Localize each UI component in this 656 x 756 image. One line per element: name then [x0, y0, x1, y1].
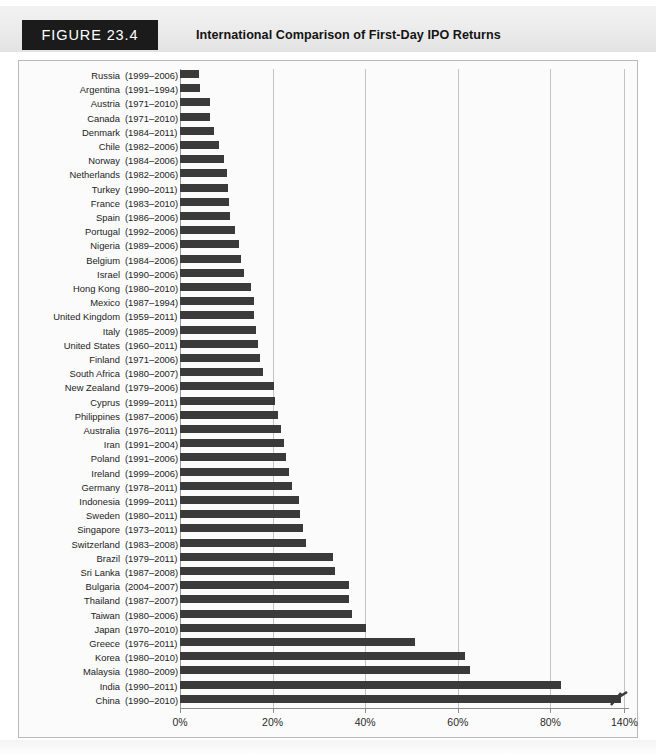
- bar: [180, 283, 251, 291]
- row-country-label: Bulgaria: [19, 581, 120, 592]
- chart-row: Iran(1991–2004): [19, 438, 639, 452]
- bar: [180, 184, 228, 192]
- row-country-label: Australia: [19, 425, 120, 436]
- row-country-label: Japan: [19, 624, 120, 635]
- bar: [180, 439, 284, 447]
- chart-row: Austria(1971–2010): [19, 97, 639, 111]
- chart-row: Indonesia(1999–2011): [19, 495, 639, 509]
- row-year-range-label: (1960–2011): [125, 340, 177, 351]
- chart-row: Netherlands(1982–2006): [19, 168, 639, 182]
- bar: [180, 340, 258, 348]
- chart-row: India(1990–2011): [19, 680, 639, 694]
- row-country-label: Singapore: [19, 524, 120, 535]
- bar: [180, 425, 281, 433]
- row-year-range-label: (1982–2006): [125, 141, 177, 152]
- bar: [180, 453, 286, 461]
- row-year-range-label: (1999–2006): [125, 70, 177, 81]
- row-country-label: Philippines: [19, 411, 120, 422]
- row-country-label: South Africa: [19, 368, 120, 379]
- bar: [180, 524, 303, 532]
- row-country-label: France: [19, 198, 120, 209]
- row-country-label: Taiwan: [19, 610, 120, 621]
- row-country-label: Austria: [19, 98, 120, 109]
- bar-chart-plot: Russia(1999–2006)Argentina(1991–1994)Aus…: [19, 61, 639, 739]
- chart-row: Japan(1970–2010): [19, 623, 639, 637]
- chart-row: Malaysia(1980–2009): [19, 665, 639, 679]
- bar: [180, 198, 229, 206]
- row-year-range-label: (1979–2006): [125, 382, 177, 393]
- row-year-range-label: (1987–2008): [125, 567, 177, 578]
- bar: [180, 397, 275, 405]
- row-year-range-label: (1971–2010): [125, 98, 177, 109]
- row-country-label: United Kingdom: [19, 311, 120, 322]
- chart-row: Taiwan(1980–2006): [19, 609, 639, 623]
- chart-row: New Zealand(1979–2006): [19, 381, 639, 395]
- row-country-label: Poland: [19, 453, 120, 464]
- row-country-label: Greece: [19, 638, 120, 649]
- bar: [180, 113, 210, 121]
- chart-row: Portugal(1992–2006): [19, 225, 639, 239]
- row-year-range-label: (1973–2011): [125, 524, 177, 535]
- bar: [180, 482, 292, 490]
- bar: [180, 411, 278, 419]
- bar: [180, 468, 289, 476]
- chart-row: Philippines(1987–2006): [19, 410, 639, 424]
- figure-header-band: FIGURE 23.4 International Comparison of …: [0, 6, 656, 52]
- row-country-label: Portugal: [19, 226, 120, 237]
- chart-row: United Kingdom(1959–2011): [19, 310, 639, 324]
- row-year-range-label: (1986–2006): [125, 212, 177, 223]
- row-country-label: Brazil: [19, 553, 120, 564]
- bar: [180, 311, 254, 319]
- row-year-range-label: (1990–2011): [125, 184, 177, 195]
- chart-row: Belgium(1984–2006): [19, 254, 639, 268]
- bar: [180, 255, 241, 263]
- bar: [180, 141, 219, 149]
- row-country-label: Switzerland: [19, 539, 120, 550]
- bar: [180, 98, 210, 106]
- chart-row: Argentina(1991–1994): [19, 83, 639, 97]
- x-tick-label: 20%: [262, 716, 283, 728]
- axis-break-zigzag-icon: [609, 690, 629, 708]
- row-country-label: Thailand: [19, 595, 120, 606]
- row-country-label: Sweden: [19, 510, 120, 521]
- row-year-range-label: (1980–2009): [125, 666, 177, 677]
- figure-number-tag: FIGURE 23.4: [22, 20, 158, 50]
- row-country-label: Mexico: [19, 297, 120, 308]
- row-country-label: Belgium: [19, 255, 120, 266]
- row-year-range-label: (1999–2011): [125, 397, 177, 408]
- chart-row: Nigeria(1989–2006): [19, 239, 639, 253]
- chart-row: Italy(1985–2009): [19, 325, 639, 339]
- row-country-label: Turkey: [19, 184, 120, 195]
- row-country-label: Spain: [19, 212, 120, 223]
- row-year-range-label: (1991–1994): [125, 84, 177, 95]
- x-tick-label: 40%: [355, 716, 376, 728]
- figure-page: FIGURE 23.4 International Comparison of …: [0, 0, 656, 756]
- chart-row: Norway(1984–2006): [19, 154, 639, 168]
- row-country-label: Germany: [19, 482, 120, 493]
- chart-row: Denmark(1984–2011): [19, 126, 639, 140]
- chart-row: Greece(1976–2011): [19, 637, 639, 651]
- bar: [180, 127, 214, 135]
- x-axis-line: [180, 708, 629, 709]
- bar: [180, 297, 254, 305]
- chart-row: Russia(1999–2006): [19, 69, 639, 83]
- row-country-label: Hong Kong: [19, 283, 120, 294]
- row-year-range-label: (1983–2008): [125, 539, 177, 550]
- bar: [180, 326, 256, 334]
- row-year-range-label: (1980–2011): [125, 510, 177, 521]
- bar: [180, 212, 230, 220]
- x-tick-label: 80%: [540, 716, 561, 728]
- row-country-label: China: [19, 695, 120, 706]
- chart-row: France(1983–2010): [19, 197, 639, 211]
- bar: [180, 226, 235, 234]
- row-country-label: Chile: [19, 141, 120, 152]
- row-year-range-label: (1983–2010): [125, 198, 177, 209]
- row-year-range-label: (1984–2006): [125, 155, 177, 166]
- row-country-label: Ireland: [19, 468, 120, 479]
- x-tick-60: [458, 708, 459, 713]
- bar: [180, 269, 244, 277]
- x-tick-label: 0%: [172, 716, 187, 728]
- row-country-label: United States: [19, 340, 120, 351]
- chart-row: Australia(1976–2011): [19, 424, 639, 438]
- bar: [180, 695, 621, 703]
